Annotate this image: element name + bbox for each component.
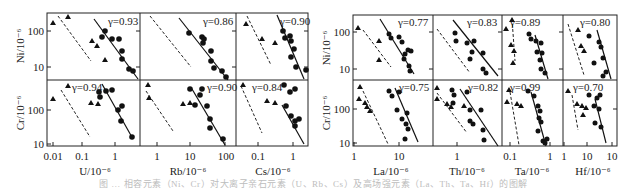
svg-text:10: 10 [33,61,45,73]
svg-text:γ=0.75: γ=0.75 [398,81,430,93]
svg-text:0.1: 0.1 [75,150,89,162]
svg-text:100: 100 [218,150,235,162]
svg-text:1: 1 [547,150,553,162]
figure-caption: 图 … 相容元素（Ni、Cr）对大离子亲石元素（U、Rb、Cs）及高场强元素（L… [0,177,627,189]
svg-text:1: 1 [351,150,357,162]
svg-text:La/10⁻⁶: La/10⁻⁶ [373,165,408,177]
svg-text:γ=0.84: γ=0.84 [251,81,283,93]
svg-text:10: 10 [339,137,351,149]
svg-text:0.1: 0.1 [503,150,517,162]
svg-text:0.01: 0.01 [43,150,62,162]
svg-text:10: 10 [394,150,406,162]
svg-text:Hf/10⁻⁶: Hf/10⁻⁶ [575,165,610,177]
svg-text:γ=0.83: γ=0.83 [466,16,498,28]
svg-text:0.1: 0.1 [251,150,265,162]
svg-text:γ=0.70: γ=0.70 [572,81,604,93]
svg-text:1: 1 [112,150,118,162]
svg-text:γ=0.90: γ=0.90 [206,81,238,93]
svg-text:γ=0.86: γ=0.86 [202,15,234,27]
svg-text:10: 10 [582,150,594,162]
svg-text:Cs/10⁻⁶: Cs/10⁻⁶ [255,165,290,177]
svg-text:Ta/10⁻⁶: Ta/10⁻⁶ [515,165,550,177]
svg-text:γ=0.93: γ=0.93 [107,15,139,27]
svg-text:1: 1 [454,150,460,162]
svg-text:γ=0.82: γ=0.82 [467,81,498,93]
svg-text:γ=0.99: γ=0.99 [509,81,541,93]
svg-text:Cr/10⁻⁶: Cr/10⁻⁶ [320,95,332,130]
svg-text:100: 100 [28,25,45,37]
svg-text:γ=0.90: γ=0.90 [279,15,311,27]
svg-text:100: 100 [334,26,351,38]
svg-text:Ni/10⁻⁶: Ni/10⁻⁶ [320,30,332,65]
svg-text:Ni/10⁻⁶: Ni/10⁻⁶ [14,28,26,63]
svg-text:γ=0.77: γ=0.77 [397,16,429,28]
svg-text:10: 10 [339,63,351,75]
axis-labels: Ni/10⁻⁶ Cr/10⁻⁶ U/10⁻⁶ Rb/10⁻⁶ Cs/10⁻⁶ N… [14,28,611,177]
svg-text:1: 1 [154,150,160,162]
svg-text:100: 100 [28,104,45,116]
svg-text:100: 100 [334,103,351,115]
svg-text:10: 10 [33,138,45,150]
svg-text:Th/10⁻⁶: Th/10⁻⁶ [449,165,485,177]
svg-text:Rb/10⁻⁶: Rb/10⁻⁶ [170,165,207,177]
svg-text:Cr/10⁻⁶: Cr/10⁻⁶ [14,95,26,130]
svg-text:U/10⁻⁶: U/10⁻⁶ [79,165,111,177]
svg-text:γ=0.80: γ=0.80 [579,16,611,28]
figure-canvas: 100 10 100 10 0.01 0.1 1 1 10 100 0.1 1 … [0,0,627,189]
svg-text:10: 10 [185,150,197,162]
svg-text:1: 1 [561,150,567,162]
svg-text:10: 10 [607,150,619,162]
svg-text:1: 1 [290,150,296,162]
